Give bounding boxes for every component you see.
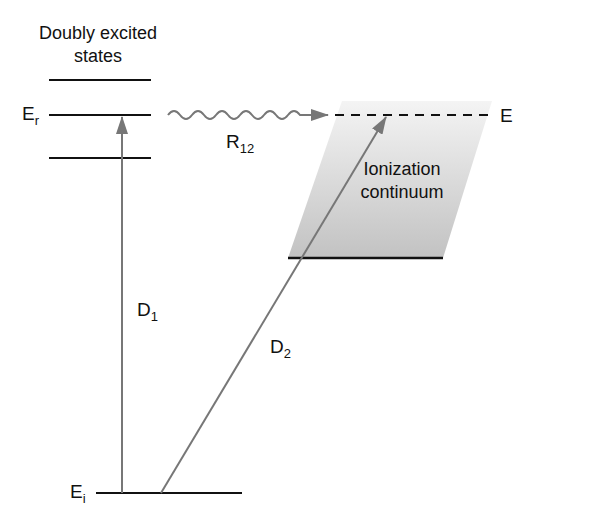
- label-ei-sub: i: [83, 491, 86, 506]
- title-line-1: Doubly excited: [18, 22, 178, 45]
- label-ionization-continuum: Ionization continuum: [346, 158, 458, 204]
- r12-autoionization-wavy-arrow: [168, 111, 328, 119]
- continuum-line-1: Ionization: [346, 158, 458, 181]
- label-d2: D2: [270, 337, 291, 360]
- label-e-main: E: [500, 105, 513, 126]
- label-d2-main: D: [270, 336, 284, 357]
- continuum-line-2: continuum: [346, 181, 458, 204]
- label-er-main: E: [22, 103, 35, 124]
- doubly-excited-states-title: Doubly excited states: [18, 22, 178, 68]
- label-d2-sub: 2: [284, 346, 291, 361]
- label-ei-main: E: [70, 481, 83, 502]
- title-line-2: states: [18, 45, 178, 68]
- energy-level-diagram: Doubly excited states Er R12 E Ionizatio…: [0, 0, 605, 523]
- label-d1-main: D: [137, 299, 151, 320]
- label-ei: Ei: [70, 482, 86, 505]
- label-d1: D1: [137, 300, 158, 323]
- label-r12-sub: 12: [240, 141, 254, 156]
- label-er: Er: [22, 104, 39, 127]
- label-d1-sub: 1: [151, 309, 158, 324]
- label-er-sub: r: [35, 113, 39, 128]
- diagram-graphics: [0, 0, 605, 523]
- label-e: E: [500, 106, 513, 125]
- label-r12-main: R: [226, 131, 240, 152]
- label-r12: R12: [226, 132, 254, 155]
